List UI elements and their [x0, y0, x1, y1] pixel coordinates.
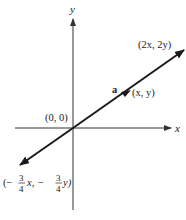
vector-neg-three-quarters-a — [20, 128, 73, 165]
point-neg-three-quarters-label: (− 3 4 x, − 3 4 y) — [3, 173, 72, 194]
vector-scaling-diagram: y x (0, 0) (2x, 2y) (x, y) a (− 3 4 x, −… — [0, 0, 186, 220]
origin-label: (0, 0) — [45, 112, 68, 124]
point-2x2y-label: (2x, 2y) — [138, 39, 172, 51]
y-axis-label: y — [69, 3, 75, 15]
vector-a-arrowhead — [121, 90, 131, 97]
neg-frac-den2: 4 — [56, 184, 61, 194]
vector-2a — [73, 50, 184, 128]
x-axis-label: x — [174, 122, 180, 134]
neg-frac-close: y) — [62, 177, 72, 189]
neg-frac-num1: 3 — [19, 173, 24, 183]
neg-frac-mid: x, − — [26, 177, 44, 188]
point-xy-label: (x, y) — [132, 87, 155, 99]
neg-frac-open: (− — [3, 177, 12, 189]
neg-frac-num2: 3 — [56, 173, 61, 183]
neg-frac-den1: 4 — [19, 184, 24, 194]
vector-a-label: a — [112, 84, 118, 95]
